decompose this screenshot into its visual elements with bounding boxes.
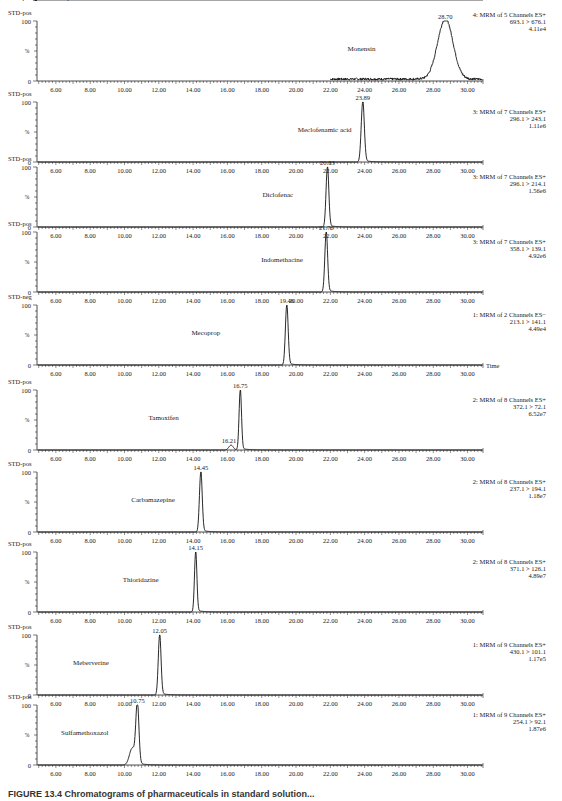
trace-line (38, 102, 482, 162)
peak-rt-label: 19.46 (279, 297, 294, 304)
x-tick-label: 20.00 (289, 770, 304, 777)
x-tick-label: 24.00 (357, 455, 372, 462)
y-tick-100: 100 (21, 18, 31, 25)
x-tick-label: 28.00 (426, 370, 441, 377)
mrm-transition: 213.1 > 141.1 (510, 318, 546, 325)
x-tick-label: 6.00 (50, 370, 61, 377)
x-tick-label: 8.00 (84, 370, 95, 377)
mrm-function: 1: MRM of 2 Channels ES− (473, 311, 547, 318)
mrm-function: 3: MRM of 7 Channels ES+ (473, 108, 547, 115)
x-tick-label: 28.00 (426, 86, 441, 93)
x-tick-label: 24.00 (357, 167, 372, 174)
mrm-transition: 296.1 > 214.1 (510, 180, 546, 187)
x-tick-label: 20.00 (289, 370, 304, 377)
x-tick-label: 24.00 (357, 0, 372, 1)
peak-rt-label: 14.45 (194, 464, 209, 471)
x-tick-label: 24.00 (357, 232, 372, 239)
sample-label: STD-pos (8, 155, 32, 162)
x-tick-label: 18.00 (254, 86, 269, 93)
x-tick-label: 28.00 (426, 700, 441, 707)
x-tick-label: 24.00 (357, 297, 372, 304)
x-tick-label: 6.00 (50, 617, 61, 624)
compound-name: Tamoxifen (149, 414, 180, 422)
x-tick-label: 14.00 (186, 297, 201, 304)
x-tick-label: 18.00 (254, 297, 269, 304)
x-tick-label: 28.00 (426, 617, 441, 624)
x-tick-label: 8.00 (84, 617, 95, 624)
x-tick-label: 20.00 (289, 86, 304, 93)
mrm-transition: 237.1 > 194.1 (510, 485, 546, 492)
x-tick-label: 18.00 (254, 700, 269, 707)
y-axis-label: % (25, 579, 30, 585)
sample-label: STD-pos (8, 460, 32, 467)
chromatogram-panel-propranolol: 1000%STD-pos6.008.0010.0012.0014.0016.00… (8, 0, 547, 2)
x-tick-label: 14.00 (186, 370, 201, 377)
compound-name: Carbamazepine (131, 496, 175, 504)
compound-name: Mecoprop (191, 329, 220, 337)
x-tick-label: 16.00 (220, 537, 235, 544)
x-tick-label: 30.00 (460, 297, 475, 304)
x-tick-label: 30.00 (460, 86, 475, 93)
mrm-function: 2: MRM of 8 Channels ES+ (473, 396, 547, 403)
mrm-function: 3: MRM of 7 Channels ES+ (473, 238, 547, 245)
x-tick-label: 14.00 (186, 232, 201, 239)
x-tick-label: 28.00 (426, 297, 441, 304)
x-tick-label: 28.00 (426, 232, 441, 239)
x-tick-label: 12.00 (151, 167, 166, 174)
mrm-transition: 371.1 > 126.1 (510, 565, 546, 572)
y-axis-label: % (25, 332, 30, 338)
sample-label: STD-pos (8, 693, 32, 700)
x-tick-label: 8.00 (84, 455, 95, 462)
intensity-value: 1.18e7 (528, 492, 546, 499)
x-tick-label: 10.00 (117, 455, 132, 462)
sample-label: STD-pos (8, 0, 32, 1)
x-tick-label: 28.00 (426, 167, 441, 174)
y-tick-100: 100 (21, 302, 31, 309)
y-tick-100: 100 (21, 99, 31, 106)
x-tick-label: 22.00 (323, 700, 338, 707)
x-tick-label: 26.00 (392, 700, 407, 707)
x-tick-label: 16.00 (220, 167, 235, 174)
x-tick-label: 10.00 (117, 370, 132, 377)
x-tick-label: 6.00 (50, 232, 61, 239)
x-tick-label: 28.00 (426, 0, 441, 1)
x-tick-label: 6.00 (50, 167, 61, 174)
x-tick-label: 28.00 (426, 455, 441, 462)
trace-line (38, 232, 482, 292)
chromatogram-panel-tamoxifen: 1000%STD-pos6.008.0010.0012.0014.0016.00… (8, 378, 547, 462)
y-axis-label: % (25, 417, 30, 423)
x-tick-label: 16.00 (220, 0, 235, 1)
intensity-value: 1.11e6 (529, 122, 547, 129)
x-tick-label: 18.00 (254, 167, 269, 174)
y-tick-0: 0 (28, 529, 31, 536)
x-tick-label: 8.00 (84, 297, 95, 304)
x-tick-label: 20.00 (289, 167, 304, 174)
x-tick-label: 6.00 (50, 86, 61, 93)
x-tick-label: 10.00 (117, 770, 132, 777)
x-tick-label: 22.00 (323, 455, 338, 462)
x-tick-label: 30.00 (460, 700, 475, 707)
chromatogram-panel-carbamazepine: 1000%STD-pos6.008.0010.0012.0014.0016.00… (8, 460, 547, 544)
chromatogram-figure: 1000%STD-pos6.008.0010.0012.0014.0016.00… (0, 0, 562, 801)
x-tick-label: 26.00 (392, 455, 407, 462)
x-tick-label: 20.00 (289, 232, 304, 239)
sample-label: STD-pos (8, 623, 32, 630)
y-tick-100: 100 (21, 387, 31, 394)
y-tick-100: 100 (21, 469, 31, 476)
intensity-value: 4.11e4 (529, 25, 547, 32)
x-tick-label: 16.00 (220, 232, 235, 239)
sample-label: STD-pos (8, 540, 32, 547)
x-tick-label: 14.00 (186, 455, 201, 462)
x-tick-label: 14.00 (186, 0, 201, 1)
y-axis-label: % (25, 499, 30, 505)
mrm-function: 2: MRM of 8 Channels ES+ (473, 558, 547, 565)
y-tick-0: 0 (28, 609, 31, 616)
x-tick-label: 22.00 (323, 167, 338, 174)
y-axis-label: % (25, 259, 30, 265)
x-tick-label: 12.00 (151, 700, 166, 707)
chromatogram-panel-meberverine: 1000%STD-pos6.008.0010.0012.0014.0016.00… (8, 623, 546, 707)
intensity-value: 4.92e6 (528, 252, 546, 259)
x-tick-label: 16.00 (220, 617, 235, 624)
intensity-value: 4.49e4 (528, 325, 546, 332)
sample-label: STD-pos (8, 378, 32, 385)
